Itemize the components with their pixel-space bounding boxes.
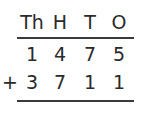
- plus-sign: +: [0, 72, 22, 92]
- row2-ones: 1: [107, 72, 131, 92]
- row1-hundreds: 4: [48, 44, 72, 64]
- header-tens: T: [78, 12, 102, 32]
- header-divider: [17, 37, 134, 39]
- row2-thousands: 3: [20, 72, 44, 92]
- header-hundreds: H: [48, 12, 72, 32]
- header-ones: O: [107, 12, 131, 32]
- header-thousands: Th: [20, 12, 44, 32]
- row2-tens: 1: [78, 72, 102, 92]
- row1-ones: 5: [107, 44, 131, 64]
- row1-thousands: 1: [20, 44, 44, 64]
- sum-line: [17, 100, 134, 102]
- row1-tens: 7: [78, 44, 102, 64]
- row2-hundreds: 7: [48, 72, 72, 92]
